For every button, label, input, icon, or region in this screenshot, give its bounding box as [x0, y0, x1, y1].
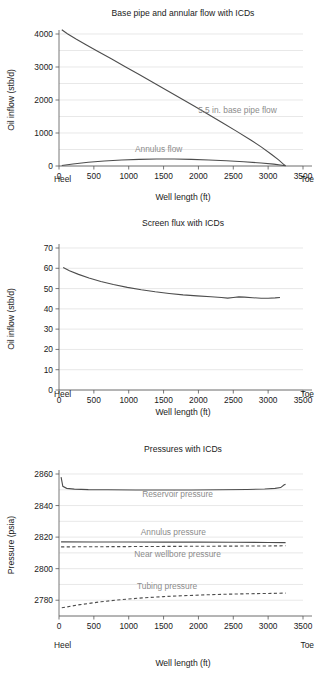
series-annotation: Tubing pressure — [137, 581, 198, 591]
chart-svg-2: 2780280028202840286005001000150020002500… — [0, 430, 330, 674]
y-tick-label: 2800 — [34, 564, 53, 574]
x-tick-label: 2500 — [224, 395, 243, 405]
chart-panel-base-pipe-and-annular-flow: 0100020003000400005001000150020002500300… — [0, 0, 330, 215]
series-line-near-wellbore-pressure — [61, 546, 285, 547]
x-tick-label: 1000 — [119, 395, 138, 405]
x-tick-label: 500 — [87, 171, 101, 181]
x-tick-label: 1500 — [154, 395, 173, 405]
y-tick-label: 2780 — [34, 595, 53, 605]
x-tick-label: 2000 — [189, 395, 208, 405]
x-tick-label: 2000 — [189, 621, 208, 631]
y-tick-label: 0 — [48, 161, 53, 171]
y-tick-label: 70 — [44, 243, 54, 253]
y-tick-label: 3000 — [34, 62, 53, 72]
y-tick-label: 4000 — [34, 29, 53, 39]
y-axis-label: Oil inflow (stb/d) — [6, 69, 16, 131]
x-axis-end-label-heel: Heel — [54, 640, 71, 650]
chart-panel-pressures: 2780280028202840286005001000150020002500… — [0, 430, 330, 674]
chart-title: Pressures with ICDs — [144, 444, 222, 454]
x-axis-label: Well length (ft) — [155, 192, 210, 202]
x-axis-label: Well length (ft) — [155, 407, 210, 417]
series-line-annulus-flow — [62, 159, 286, 166]
x-tick-label: 3000 — [259, 621, 278, 631]
y-tick-label: 40 — [44, 304, 54, 314]
y-tick-label: 1000 — [34, 128, 53, 138]
series-annotation: Annulus pressure — [141, 527, 207, 537]
x-tick-label: 500 — [87, 395, 101, 405]
y-tick-label: 50 — [44, 284, 54, 294]
x-axis-end-label-heel: Heel — [54, 389, 71, 399]
x-tick-label: 3000 — [259, 395, 278, 405]
x-axis-end-label-toe: Toe — [300, 174, 314, 184]
y-tick-label: 2860 — [34, 469, 53, 479]
series-line-annulus-pressure — [61, 542, 285, 543]
y-tick-label: 30 — [44, 324, 54, 334]
series-annotation: 5.5 in. base pipe flow — [198, 105, 278, 115]
y-tick-label: 0 — [48, 385, 53, 395]
multi-panel-figure: 0100020003000400005001000150020002500300… — [0, 0, 330, 674]
chart-title: Base pipe and annular flow with ICDs — [112, 8, 255, 18]
x-axis-end-label-toe: Toe — [300, 389, 314, 399]
y-tick-label: 2820 — [34, 532, 53, 542]
x-axis-end-label-heel: Heel — [54, 174, 71, 184]
y-tick-label: 60 — [44, 263, 54, 273]
y-tick-label: 10 — [44, 365, 54, 375]
x-tick-label: 2500 — [224, 171, 243, 181]
y-tick-label: 2840 — [34, 501, 53, 511]
chart-svg-1: 0102030405060700500100015002000250030003… — [0, 215, 330, 430]
x-tick-label: 1500 — [154, 621, 173, 631]
x-tick-label: 1500 — [154, 171, 173, 181]
series-annotation: Near wellbore pressure — [134, 549, 221, 559]
chart-panel-screen-flux: 0102030405060700500100015002000250030003… — [0, 215, 330, 430]
y-tick-label: 20 — [44, 344, 54, 354]
series-line-screen-flux — [63, 267, 280, 298]
y-axis-label: Oil inflow (stb/d) — [6, 288, 16, 350]
series-annotation: Annulus flow — [135, 144, 183, 154]
x-axis-label: Well length (ft) — [155, 658, 210, 668]
x-tick-label: 2000 — [189, 171, 208, 181]
x-tick-label: 1000 — [119, 621, 138, 631]
chart-title: Screen flux with ICDs — [142, 218, 224, 228]
series-annotation: Reservoir pressure — [142, 489, 213, 499]
y-axis-label: Pressure (psia) — [6, 516, 16, 574]
chart-svg-0: 0100020003000400005001000150020002500300… — [0, 0, 330, 215]
x-tick-label: 2500 — [224, 621, 243, 631]
y-tick-label: 2000 — [34, 95, 53, 105]
x-tick-label: 500 — [87, 621, 101, 631]
x-axis-end-label-toe: Toe — [300, 640, 314, 650]
x-tick-label: 3500 — [294, 621, 313, 631]
x-tick-label: 3000 — [259, 171, 278, 181]
x-tick-label: 1000 — [119, 171, 138, 181]
x-tick-label: 0 — [57, 621, 62, 631]
